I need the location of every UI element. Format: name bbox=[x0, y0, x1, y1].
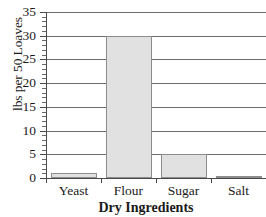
x-category-label: Sugar bbox=[156, 183, 211, 199]
bar-series bbox=[46, 12, 266, 178]
x-axis-title: Dry Ingredients bbox=[46, 200, 246, 216]
x-axis-category-labels: YeastFlourSugarSalt bbox=[46, 183, 266, 201]
y-tick-label: 5 bbox=[2, 147, 36, 160]
y-tick-label: 0 bbox=[2, 171, 36, 184]
y-tick-label: 10 bbox=[2, 124, 36, 137]
y-tick-label: 20 bbox=[2, 76, 36, 89]
y-axis-line bbox=[46, 12, 47, 179]
y-tick-label: 30 bbox=[2, 29, 36, 42]
x-category-label: Salt bbox=[211, 183, 266, 199]
y-tick-label: 35 bbox=[2, 5, 36, 18]
bar bbox=[161, 154, 207, 178]
bar-chart: lbs per 50 Loaves 05101520253035 YeastFl… bbox=[0, 0, 266, 217]
y-tick-label: 15 bbox=[2, 100, 36, 113]
bar bbox=[106, 36, 152, 178]
x-category-label: Flour bbox=[101, 183, 156, 199]
x-category-label: Yeast bbox=[46, 183, 101, 199]
y-tick-label: 25 bbox=[2, 52, 36, 65]
